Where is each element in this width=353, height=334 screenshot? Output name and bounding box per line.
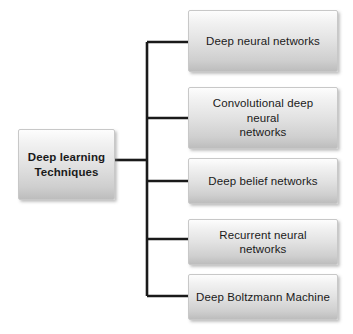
node-child-recurrent-neural-networks[interactable]: Recurrent neural networks — [188, 219, 338, 265]
node-child-deep-belief-networks[interactable]: Deep belief networks — [188, 158, 338, 204]
node-child-deep-boltzmann-machine[interactable]: Deep Boltzmann Machine — [188, 274, 338, 320]
node-child-label-line1: Convolutional deep neural — [213, 97, 313, 123]
node-root-label-line1: Deep learning — [28, 151, 105, 163]
deep-learning-techniques-diagram: Deep learningTechniques Deep neural netw… — [0, 0, 353, 334]
node-root-label: Deep learningTechniques — [22, 150, 111, 179]
node-child-label-line2: networks — [240, 126, 287, 138]
node-child-label: Convolutional deep neuralnetworks — [189, 96, 337, 139]
node-child-label-line1: Recurrent neural networks — [219, 229, 306, 255]
node-child-convolutional-deep-neural-networks[interactable]: Convolutional deep neuralnetworks — [188, 87, 338, 149]
node-child-label: Deep belief networks — [202, 174, 323, 188]
node-root-label-line2: Techniques — [34, 166, 98, 178]
node-child-label-line1: Deep Boltzmann Machine — [196, 291, 330, 303]
node-child-label-line1: Deep belief networks — [208, 175, 317, 187]
node-child-label: Deep Boltzmann Machine — [190, 290, 336, 304]
node-child-deep-neural-networks[interactable]: Deep neural networks — [188, 10, 338, 72]
node-root-deep-learning-techniques[interactable]: Deep learningTechniques — [18, 129, 115, 200]
node-child-label: Recurrent neural networks — [189, 228, 337, 257]
node-child-label: Deep neural networks — [200, 34, 326, 48]
node-child-label-line1: Deep neural networks — [206, 35, 320, 47]
